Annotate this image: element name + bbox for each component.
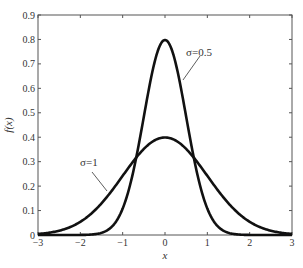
y-axis-label: f(x) [2,117,15,133]
y-tick-label: 0.8 [23,34,36,45]
y-tick-label: 0.1 [23,205,36,216]
x-axis-label: x [162,249,168,261]
x-tick-label: −2 [75,237,86,248]
y-tick-label: 0 [30,230,35,241]
curve-σ=1 [38,137,292,233]
y-tick-label: 0.7 [23,58,36,69]
x-tick-label: 0 [163,237,168,248]
y-tick-label: 0.2 [23,181,36,192]
annotation-sigma-0.5: σ=0.5 [186,46,212,58]
x-tick-label: 2 [247,237,252,248]
y-tick-label: 0.6 [23,83,36,94]
y-axis: 00.10.20.30.40.50.60.70.80.9 [23,10,293,241]
y-tick-label: 0.3 [23,156,36,167]
y-tick-label: 0.4 [23,132,36,143]
x-tick-label: 1 [205,237,210,248]
x-axis: −3−2−10123 [33,15,295,248]
y-tick-label: 0.5 [23,107,36,118]
y-tick-label: 0.9 [23,10,36,21]
normal-distribution-chart: −3−2−10123 00.10.20.30.40.50.60.70.80.9 … [0,0,303,268]
curves [38,40,292,235]
annotation-sigma-1: σ=1 [80,156,98,168]
plot-frame [38,15,292,235]
annotations: σ=0.5σ=1 [80,46,212,191]
x-tick-label: −1 [117,237,128,248]
x-tick-label: 3 [290,237,295,248]
